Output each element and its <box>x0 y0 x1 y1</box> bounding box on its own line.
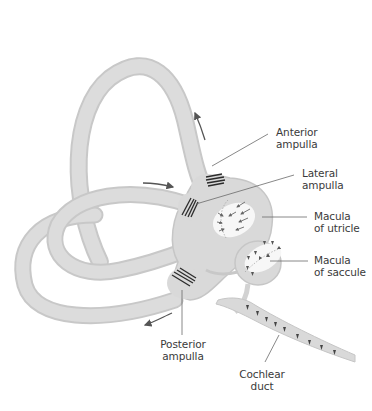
label-line: ampulla <box>156 350 210 362</box>
label-line: Posterior <box>156 338 210 350</box>
lateral-flow-arrow <box>143 183 173 187</box>
label-line: Macula <box>314 210 360 222</box>
leader-cochlear-duct <box>265 335 279 362</box>
label-line: duct <box>236 380 288 392</box>
label-macula-utricle: Macula of utricle <box>314 210 360 234</box>
label-line: Anterior <box>276 126 318 138</box>
label-anterior-ampulla: Anterior ampulla <box>276 126 318 150</box>
cochlear-duct-body <box>216 298 355 362</box>
label-cochlear-duct: Cochlear duct <box>236 368 288 392</box>
label-line: of saccule <box>314 266 366 278</box>
label-line: Lateral <box>302 167 344 179</box>
label-lateral-ampulla: Lateral ampulla <box>302 167 344 191</box>
label-line: Cochlear <box>236 368 288 380</box>
inner-ear-diagram: Anterior ampulla Lateral ampulla Macula … <box>0 0 372 411</box>
label-macula-saccule: Macula of saccule <box>314 254 366 278</box>
label-line: ampulla <box>302 179 344 191</box>
label-line: Macula <box>314 254 366 266</box>
label-posterior-ampulla: Posterior ampulla <box>156 338 210 362</box>
label-line: of utricle <box>314 222 360 234</box>
leader-anterior-ampulla <box>212 134 268 166</box>
label-line: ampulla <box>276 138 318 150</box>
